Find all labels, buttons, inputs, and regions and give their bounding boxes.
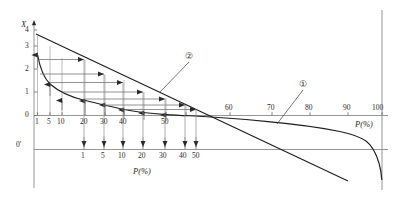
upper-x-tick-70: 70 bbox=[267, 104, 275, 112]
upper-x-tick-10: 10 bbox=[57, 118, 65, 126]
lower-x-tick-50: 50 bbox=[192, 152, 200, 160]
lower-x-tick-1: 1 bbox=[81, 152, 85, 160]
upper-x-tick-80: 80 bbox=[305, 104, 313, 112]
upper-x-tick-90: 90 bbox=[343, 104, 351, 112]
callout-leader-two bbox=[160, 62, 189, 92]
chart-svg bbox=[0, 0, 405, 201]
upper-x-tick-5: 5 bbox=[47, 118, 51, 126]
upper-x-tick-50: 50 bbox=[161, 118, 169, 126]
upper-axis-ticks bbox=[38, 112, 383, 115]
upper-x-tick-20: 20 bbox=[80, 118, 88, 126]
lower-x-axis-title: P(%) bbox=[133, 167, 151, 176]
upper-x-axis-title: P(%) bbox=[355, 120, 373, 129]
y-tick-3: 3 bbox=[25, 42, 29, 50]
upper-x-tick-60: 60 bbox=[225, 104, 233, 112]
upper-x-tick-100: 100 bbox=[372, 104, 383, 112]
y-axis-ticks bbox=[34, 30, 37, 116]
lower-x-tick-40: 40 bbox=[179, 152, 187, 160]
y-tick-4: 4 bbox=[25, 26, 29, 34]
lower-origin-label: 0' bbox=[16, 141, 21, 149]
figure-canvas: X 4 3 2 1 0 1 5 10 20 30 40 50 60 70 80 … bbox=[0, 0, 405, 201]
lower-x-tick-5: 5 bbox=[101, 152, 105, 160]
lower-x-tick-10: 10 bbox=[118, 152, 126, 160]
probability-gridlines bbox=[38, 36, 187, 116]
callout-curve-one: ① bbox=[299, 80, 307, 89]
lower-x-tick-20: 20 bbox=[138, 152, 146, 160]
y-tick-1: 1 bbox=[25, 88, 29, 96]
y-axis-arrow bbox=[32, 20, 36, 25]
upper-x-tick-1: 1 bbox=[35, 118, 39, 126]
lower-axis-ticks bbox=[84, 146, 196, 149]
dropline-arrowheads bbox=[84, 137, 196, 147]
lower-x-tick-30: 30 bbox=[159, 152, 167, 160]
upper-x-tick-30: 30 bbox=[100, 118, 108, 126]
callout-leader-one bbox=[277, 90, 303, 124]
upper-x-tick-40: 40 bbox=[119, 118, 127, 126]
y-tick-0: 0 bbox=[25, 111, 29, 119]
callout-curve-two: ② bbox=[185, 52, 193, 61]
y-tick-2: 2 bbox=[25, 65, 29, 73]
